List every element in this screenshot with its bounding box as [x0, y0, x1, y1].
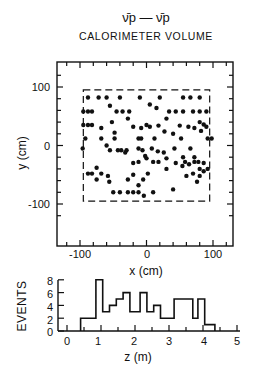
hist-x-tick-4: 4: [201, 335, 207, 347]
event-point: [198, 95, 202, 99]
event-point: [114, 109, 118, 113]
event-point: [139, 136, 143, 140]
event-point: [140, 148, 144, 152]
event-point: [126, 177, 130, 181]
event-point: [167, 109, 171, 113]
event-point: [94, 177, 98, 181]
event-point: [199, 129, 203, 133]
event-point: [181, 109, 185, 113]
x-tick-neg100: -100: [69, 248, 91, 260]
event-point: [205, 167, 209, 171]
hist-y-tick-0: 0: [47, 326, 53, 338]
event-point: [192, 155, 196, 159]
event-point: [127, 109, 131, 113]
event-point: [172, 146, 176, 150]
event-point: [112, 136, 116, 140]
event-point: [136, 146, 140, 150]
event-point: [90, 123, 94, 127]
event-point: [191, 109, 195, 113]
event-point: [139, 126, 143, 130]
histogram-panel: 8 6 4 2 0 0 1 2 3 4 5 z (m) EVENTS: [15, 275, 240, 364]
event-point: [131, 173, 135, 177]
event-point: [112, 130, 116, 134]
event-point: [156, 123, 160, 127]
event-point: [120, 109, 124, 113]
event-point: [171, 132, 175, 136]
event-point: [107, 180, 111, 184]
event-point: [86, 171, 90, 175]
event-point: [90, 171, 94, 175]
event-point: [198, 109, 202, 113]
event-point: [118, 95, 122, 99]
x-tick-0: 0: [144, 248, 150, 260]
event-point: [196, 160, 200, 164]
event-point: [192, 126, 196, 130]
event-point: [131, 190, 135, 194]
event-point: [192, 160, 196, 164]
event-point: [99, 136, 103, 140]
event-point: [187, 162, 191, 166]
event-point: [104, 95, 108, 99]
event-point: [99, 126, 103, 130]
event-point: [86, 109, 90, 113]
event-point: [181, 95, 185, 99]
event-point: [204, 109, 208, 113]
y-tick-neg100: -100: [28, 198, 50, 210]
hist-step-line: [81, 280, 215, 331]
hist-x-tick-1: 1: [95, 335, 101, 347]
figure-canvas: 100 0 -100 -100 0 100 x (cm) y (cm) 8 6 …: [0, 0, 254, 379]
hist-x-tick-0: 0: [64, 335, 70, 347]
event-point: [180, 164, 184, 168]
event-point: [181, 155, 185, 159]
event-point: [174, 109, 178, 113]
event-point: [151, 160, 155, 164]
event-point: [99, 171, 103, 175]
event-point: [136, 190, 140, 194]
scatter-panel: 100 0 -100 -100 0 100 x (cm) y (cm): [15, 62, 233, 278]
event-point: [81, 109, 85, 113]
event-point: [110, 120, 114, 124]
event-point: [83, 136, 87, 140]
scatter-points: [80, 95, 213, 198]
event-point: [142, 194, 146, 198]
hist-y-label: EVENTS: [15, 280, 29, 331]
event-point: [171, 187, 175, 191]
event-point: [179, 136, 183, 140]
event-point: [164, 167, 168, 171]
hist-x-tick-2: 2: [131, 335, 137, 347]
hist-x-tick-3: 3: [166, 335, 172, 347]
event-point: [158, 95, 162, 99]
event-point: [94, 166, 98, 170]
event-point: [119, 148, 123, 152]
hist-y-tick-8: 8: [47, 275, 53, 287]
event-point: [123, 150, 127, 154]
event-point: [144, 156, 148, 160]
y-tick-0: 0: [44, 140, 50, 152]
event-point: [108, 148, 112, 152]
event-point: [152, 136, 156, 140]
event-point: [162, 129, 166, 133]
hist-y-tick-6: 6: [47, 288, 53, 300]
fiducial-box: [83, 90, 209, 201]
event-point: [162, 150, 166, 154]
event-point: [198, 120, 202, 124]
event-point: [209, 136, 213, 140]
event-point: [164, 156, 168, 160]
event-point: [154, 106, 158, 110]
event-point: [131, 161, 135, 165]
event-point: [126, 190, 130, 194]
scatter-x-label: x (cm): [129, 264, 162, 278]
hist-y-tick-2: 2: [47, 314, 53, 326]
event-point: [198, 174, 202, 178]
event-point: [81, 123, 85, 127]
event-point: [198, 167, 202, 171]
event-point: [205, 136, 209, 140]
event-point: [184, 174, 188, 178]
event-point: [183, 160, 187, 164]
event-point: [186, 125, 190, 129]
event-point: [174, 161, 178, 165]
event-point: [191, 171, 195, 175]
event-point: [148, 125, 152, 129]
event-point: [80, 146, 84, 150]
event-point: [136, 183, 140, 187]
